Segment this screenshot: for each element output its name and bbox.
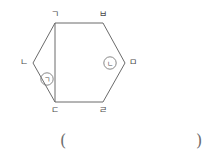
vertex-label-right: ㅁ: [129, 58, 137, 67]
vertex-label-bottom-right: ㄹ: [99, 106, 107, 115]
figure-page: ㄱ ㄴ ㄱ ㅂ ㅁ ㄹ ㄷ ㄴ ( ): [0, 0, 220, 163]
vertex-label-bottom-left: ㄷ: [51, 106, 59, 115]
vertex-label-left: ㄴ: [20, 58, 28, 67]
vertex-label-top-right: ㅂ: [99, 10, 107, 19]
angle-marker-2-icon: ㄴ: [104, 57, 116, 69]
angle-marker-1-label: ㄱ: [44, 76, 50, 84]
angle-marker-1-icon: ㄱ: [41, 73, 53, 85]
hexagon-figure: ㄱ ㄴ: [0, 0, 220, 163]
answer-blank-open-paren: (: [60, 133, 66, 149]
answer-blank-close-paren: ): [196, 133, 202, 149]
angle-marker-2-label: ㄴ: [107, 60, 113, 68]
vertex-label-top-left: ㄱ: [51, 10, 59, 19]
